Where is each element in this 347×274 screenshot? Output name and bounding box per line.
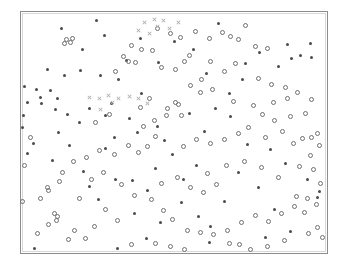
data-point-open-circle xyxy=(159,65,164,70)
data-point-open-circle xyxy=(292,204,297,209)
data-point-gray-cross xyxy=(167,26,172,31)
data-point-open-circle xyxy=(133,60,138,65)
data-point-open-circle xyxy=(222,69,227,74)
data-point-filled-dot xyxy=(97,198,100,201)
data-point-open-circle xyxy=(150,48,155,53)
data-point-filled-dot xyxy=(145,237,148,240)
data-point-filled-dot xyxy=(195,164,198,167)
data-point-gray-cross xyxy=(176,20,181,25)
data-point-filled-dot xyxy=(46,68,49,71)
data-point-open-circle xyxy=(295,90,300,95)
data-point-open-circle xyxy=(269,82,274,87)
data-point-open-circle xyxy=(168,31,173,36)
data-point-open-circle xyxy=(22,163,27,168)
data-point-open-circle xyxy=(271,100,276,105)
data-point-open-circle xyxy=(175,175,180,180)
data-point-open-circle xyxy=(188,185,193,190)
data-point-filled-dot xyxy=(95,19,98,22)
scatter-plot-figure xyxy=(0,0,347,274)
data-point-open-circle xyxy=(72,228,77,233)
data-point-filled-dot xyxy=(316,196,319,199)
data-point-filled-dot xyxy=(228,92,231,95)
data-point-open-circle xyxy=(97,148,102,153)
data-point-filled-dot xyxy=(306,178,309,181)
data-point-open-circle xyxy=(236,37,241,42)
data-point-open-circle xyxy=(107,112,112,117)
data-point-gray-cross xyxy=(87,95,92,100)
data-point-gray-cross xyxy=(110,100,115,105)
data-point-filled-dot xyxy=(163,139,166,142)
data-point-gray-cross xyxy=(136,28,141,33)
data-point-filled-dot xyxy=(40,102,43,105)
data-point-open-circle xyxy=(159,181,164,186)
data-point-filled-dot xyxy=(114,178,117,181)
data-point-open-circle xyxy=(60,170,65,175)
data-point-open-circle xyxy=(259,165,264,170)
data-point-open-circle xyxy=(303,111,308,116)
data-point-open-circle xyxy=(265,244,270,249)
data-point-open-circle xyxy=(282,238,287,243)
data-point-open-circle xyxy=(309,135,314,140)
data-point-open-circle xyxy=(288,114,293,119)
data-point-filled-dot xyxy=(51,159,54,162)
data-point-open-circle xyxy=(38,196,43,201)
data-point-open-circle xyxy=(248,247,253,252)
data-point-open-circle xyxy=(161,208,166,213)
data-point-filled-dot xyxy=(66,113,69,116)
data-point-filled-dot xyxy=(26,101,29,104)
data-point-open-circle xyxy=(291,141,296,146)
data-point-open-circle xyxy=(83,236,88,241)
data-point-gray-cross xyxy=(127,94,132,99)
data-point-open-circle xyxy=(132,193,137,198)
data-point-open-circle xyxy=(311,167,316,172)
data-point-filled-dot xyxy=(284,162,287,165)
data-point-filled-dot xyxy=(159,221,162,224)
data-point-open-circle xyxy=(283,85,288,90)
data-point-gray-cross xyxy=(145,101,150,106)
data-point-open-circle xyxy=(57,179,62,184)
data-point-open-circle xyxy=(193,29,198,34)
data-point-open-circle xyxy=(246,125,251,130)
data-point-open-circle xyxy=(309,97,314,102)
data-point-open-circle xyxy=(242,159,247,164)
data-point-gray-cross xyxy=(161,18,166,23)
data-point-open-circle xyxy=(77,196,82,201)
data-point-open-circle xyxy=(224,163,229,168)
data-point-filled-dot xyxy=(214,107,217,110)
data-point-filled-dot xyxy=(39,96,42,99)
data-point-filled-dot xyxy=(133,212,136,215)
data-point-open-circle xyxy=(266,219,271,224)
data-point-open-circle xyxy=(305,196,310,201)
data-point-filled-dot xyxy=(157,61,160,64)
data-point-open-circle xyxy=(320,235,325,240)
data-point-open-circle xyxy=(89,177,94,182)
data-point-filled-dot xyxy=(139,37,142,40)
data-point-open-circle xyxy=(220,30,225,35)
data-point-filled-dot xyxy=(197,215,200,218)
data-point-open-circle xyxy=(302,210,307,215)
data-point-filled-dot xyxy=(241,78,244,81)
data-point-filled-dot xyxy=(318,190,321,193)
data-point-open-circle xyxy=(315,225,320,230)
data-point-filled-dot xyxy=(33,247,36,250)
data-point-filled-dot xyxy=(309,42,312,45)
data-point-filled-dot xyxy=(310,56,313,59)
data-point-open-circle xyxy=(243,23,248,28)
data-point-open-circle xyxy=(260,112,265,117)
data-point-filled-dot xyxy=(140,92,143,95)
data-point-open-circle xyxy=(263,135,268,140)
data-point-open-circle xyxy=(138,105,143,110)
data-point-open-circle xyxy=(179,113,184,118)
data-point-open-circle xyxy=(225,228,230,233)
data-point-open-circle xyxy=(139,47,144,52)
data-point-filled-dot xyxy=(289,230,292,233)
data-point-filled-dot xyxy=(203,130,206,133)
data-point-filled-dot xyxy=(82,170,85,173)
data-point-open-circle xyxy=(92,224,97,229)
data-point-filled-dot xyxy=(103,34,106,37)
data-point-filled-dot xyxy=(128,117,131,120)
data-point-open-circle xyxy=(222,137,227,142)
data-point-open-circle xyxy=(152,118,157,123)
data-point-filled-dot xyxy=(131,179,134,182)
data-point-open-circle xyxy=(228,34,233,39)
